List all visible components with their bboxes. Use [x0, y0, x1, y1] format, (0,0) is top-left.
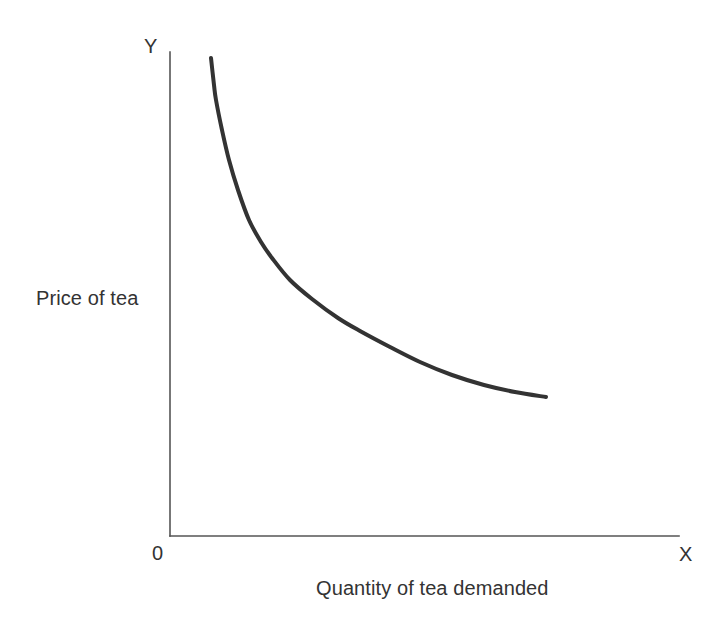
y-axis-marker-label: Y	[144, 36, 157, 56]
y-axis-title: Price of tea	[36, 288, 138, 308]
x-axis-marker-label: X	[679, 544, 692, 564]
chart-canvas	[0, 0, 726, 633]
axes-group	[170, 52, 679, 536]
series-group	[211, 58, 546, 397]
x-axis-title: Quantity of tea demanded	[316, 578, 549, 598]
demand-curve-path	[211, 58, 546, 397]
origin-label: 0	[152, 543, 163, 563]
demand-curve-figure: Y X 0 Price of tea Quantity of tea deman…	[0, 0, 726, 633]
